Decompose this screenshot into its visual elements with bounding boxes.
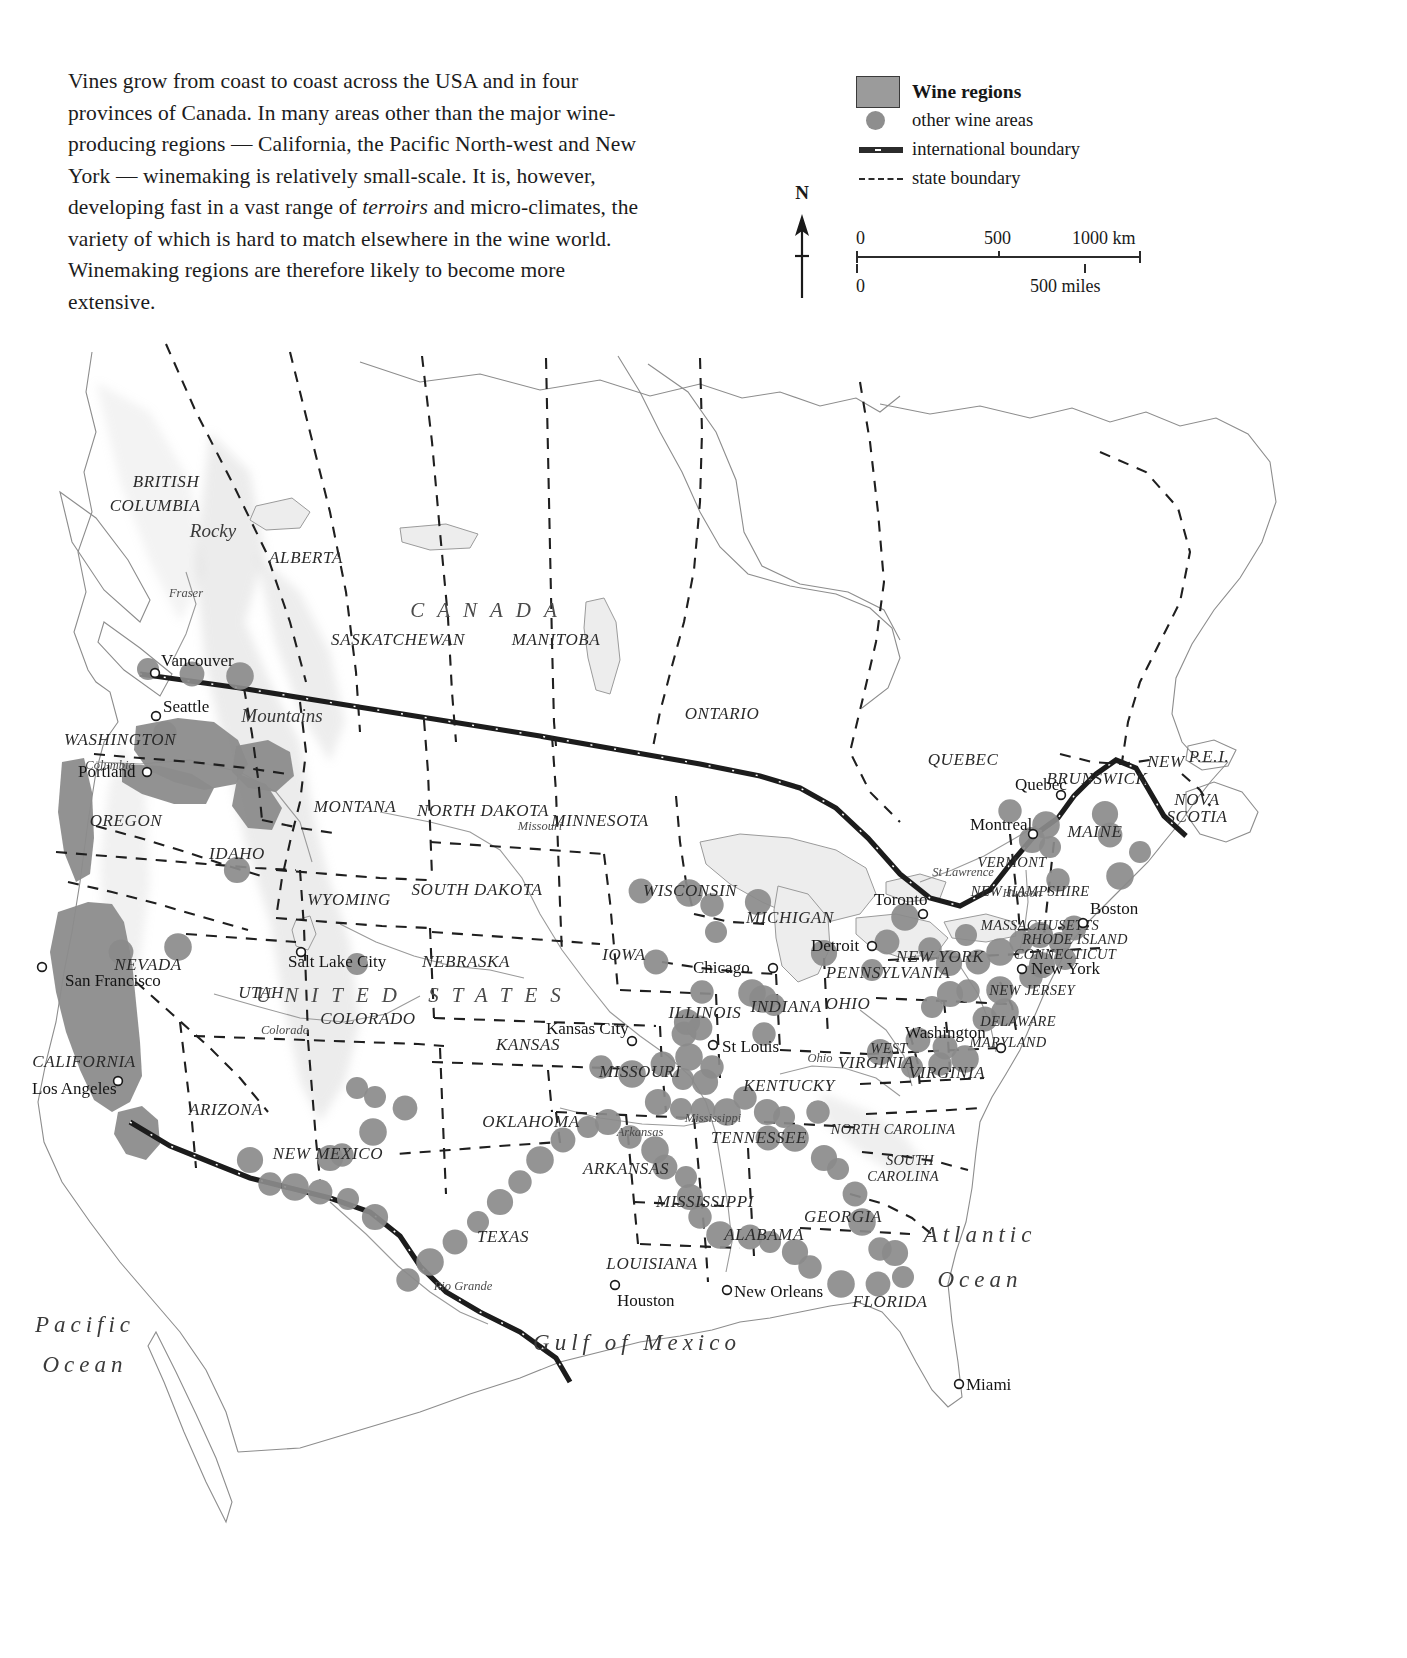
state-label: COLORADO xyxy=(320,1009,415,1028)
state-label: NEW MEXICO xyxy=(272,1144,383,1163)
state-label: IDAHO xyxy=(208,844,265,863)
province-label: P.E.I. xyxy=(1188,747,1230,766)
state-label: IOWA xyxy=(601,945,646,964)
state-label: WISCONSIN xyxy=(643,881,738,900)
scale-km-tick-0: 0 xyxy=(856,228,865,249)
wine-area-dot xyxy=(508,1170,531,1193)
wine-area-dot xyxy=(955,924,977,946)
city-label: Washington xyxy=(905,1023,986,1042)
wine-area-dot xyxy=(443,1230,468,1255)
province-label: SCOTIA xyxy=(1166,807,1227,826)
wine-area-dot xyxy=(346,1077,368,1099)
state-label: VIRGINIA xyxy=(909,1063,986,1082)
legend-item-state-boundary: state boundary xyxy=(856,165,1186,192)
state-label: NEW YORK xyxy=(895,947,985,966)
wine-area-dot xyxy=(705,921,727,943)
ocean-label: Atlantic xyxy=(922,1222,1037,1247)
state-label: GEORGIA xyxy=(804,1207,882,1226)
state-label: ALABAMA xyxy=(723,1225,804,1244)
province-label: ALBERTA xyxy=(268,548,343,567)
north-america-wine-map[interactable]: CANADAUNITED STATES PacificOceanAtlantic… xyxy=(0,322,1407,1658)
legend-key-wine-regions xyxy=(856,76,912,108)
wine-area-dot xyxy=(1106,862,1134,890)
state-label: SOUTH DAKOTA xyxy=(411,880,542,899)
state-label: DELAWARE xyxy=(979,1013,1056,1029)
compass-north-label: N xyxy=(782,182,822,204)
wine-area-dot xyxy=(827,1270,855,1298)
city-label: San Francisco xyxy=(65,971,161,990)
state-label: MICHIGAN xyxy=(745,908,835,927)
river-label: Arkansas xyxy=(616,1125,664,1139)
wine-area-dot xyxy=(843,1182,868,1207)
wine-area-dot xyxy=(487,1189,513,1215)
state-label: LOUISIANA xyxy=(605,1254,697,1273)
province-label: COLUMBIA xyxy=(110,496,201,515)
city-dot xyxy=(143,768,152,777)
city-label: Toronto xyxy=(874,890,928,909)
legend-label-international-boundary: international boundary xyxy=(912,139,1080,160)
scale-miles-tick-0: 0 xyxy=(856,276,865,297)
wine-area-dot xyxy=(393,1096,418,1121)
state-label: OHIO xyxy=(826,994,871,1013)
city-dot xyxy=(38,963,47,972)
compass-rose: N xyxy=(782,182,822,304)
wine-area-dot xyxy=(337,1188,359,1210)
state-label: ILLINOIS xyxy=(668,1003,742,1022)
city-dot xyxy=(868,942,877,951)
intro-paragraph: Vines grow from coast to coast across th… xyxy=(68,66,648,318)
province-label: MANITOBA xyxy=(511,630,601,649)
wine-area-dot xyxy=(526,1146,554,1174)
province-label: SASKATCHEWAN xyxy=(331,630,466,649)
province-label: BRITISH xyxy=(133,472,201,491)
legend-item-international-boundary: international boundary xyxy=(856,136,1186,163)
wine-area-dot xyxy=(551,1128,576,1153)
city-label: Seattle xyxy=(163,697,209,716)
river-label: Colorado xyxy=(261,1023,309,1037)
state-label: WASHINGTON xyxy=(64,730,177,749)
legend-item-wine-regions: Wine regions xyxy=(856,78,1186,105)
legend-label-state-boundary: state boundary xyxy=(912,168,1020,189)
scale-bar-miles-axis xyxy=(856,264,1156,276)
scale-bar: 0 500 1000 km 0 500 miles xyxy=(856,228,1156,296)
ocean-label: Ocean xyxy=(937,1267,1022,1292)
province-label: NEW xyxy=(1146,752,1186,771)
ocean-label: Gulf of Mexico xyxy=(533,1330,741,1355)
wine-area-dot xyxy=(281,1173,309,1201)
state-label: SOUTH xyxy=(886,1152,935,1168)
wine-area-dot xyxy=(692,1069,718,1095)
city-label: Montreal xyxy=(970,815,1033,834)
mountain-range-label: Rocky xyxy=(189,520,237,541)
scale-km-tick-1000: 1000 km xyxy=(1072,228,1136,249)
wine-area-dot xyxy=(577,1116,599,1138)
city-dot xyxy=(628,1037,637,1046)
city-label: Salt Lake City xyxy=(288,952,387,971)
country-label: CANADA xyxy=(410,598,570,622)
wine-area-dot xyxy=(827,1158,849,1180)
wine-area-dot xyxy=(416,1248,444,1276)
state-label: NEBRASKA xyxy=(421,952,510,971)
city-label: Chicago xyxy=(693,958,750,977)
map-canvas[interactable]: CANADAUNITED STATES PacificOceanAtlantic… xyxy=(0,322,1407,1658)
state-label: RHODE ISLAND xyxy=(1021,931,1128,947)
wine-area-dot xyxy=(362,1204,388,1230)
scale-bar-km-axis xyxy=(856,250,1156,264)
city-dot xyxy=(151,669,160,678)
state-label: UTAH xyxy=(238,983,285,1002)
legend-item-other-wine-areas: other wine areas xyxy=(856,107,1186,134)
wine-area-dot xyxy=(237,1147,263,1173)
city-label: Miami xyxy=(966,1375,1012,1394)
wine-area-dot xyxy=(806,1100,829,1123)
state-label: FLORIDA xyxy=(851,1292,927,1311)
state-label: NEW JERSEY xyxy=(988,982,1076,998)
city-dot xyxy=(919,910,928,919)
wine-area-dot xyxy=(644,950,669,975)
wine-area-dot xyxy=(690,980,713,1003)
state-boundary-line-icon xyxy=(859,178,903,180)
province-label: ONTARIO xyxy=(685,704,760,723)
wine-area-dot xyxy=(1129,841,1151,863)
river-label: Hudson xyxy=(1002,886,1042,900)
state-label: WYOMING xyxy=(307,890,391,909)
state-label: NORTH DAKOTA xyxy=(416,801,549,820)
river-label: Mississippi xyxy=(684,1111,742,1125)
ocean-label: Ocean xyxy=(42,1352,127,1377)
